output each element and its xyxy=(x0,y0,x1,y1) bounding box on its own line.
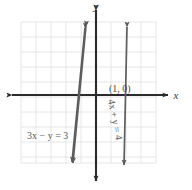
coordinate-plane-figure: x y (1, 0) 3x − y = 3 4x + y = 4 xyxy=(0,0,192,190)
intersection-point-label: (1, 0) xyxy=(109,83,131,95)
y-axis-label-top: y xyxy=(93,0,99,12)
x-axis-label: x xyxy=(173,89,179,101)
line1-equation-label: 3x − y = 3 xyxy=(27,130,68,141)
graph-canvas: x y (1, 0) 3x − y = 3 4x + y = 4 xyxy=(0,0,192,190)
